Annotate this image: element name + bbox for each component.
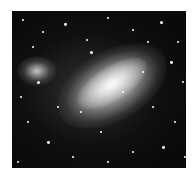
- galaxy-photo: [12, 11, 186, 168]
- star: [47, 141, 50, 144]
- star: [122, 91, 124, 93]
- star: [162, 146, 165, 149]
- star: [42, 31, 44, 33]
- star: [182, 81, 184, 83]
- star: [86, 39, 88, 41]
- star: [80, 111, 82, 113]
- star: [174, 121, 176, 123]
- star: [57, 106, 59, 108]
- star: [147, 41, 149, 43]
- star: [132, 151, 134, 153]
- star: [27, 121, 29, 123]
- star: [170, 61, 173, 64]
- star: [64, 23, 67, 26]
- star: [132, 29, 134, 31]
- star: [72, 156, 74, 158]
- star: [184, 156, 186, 158]
